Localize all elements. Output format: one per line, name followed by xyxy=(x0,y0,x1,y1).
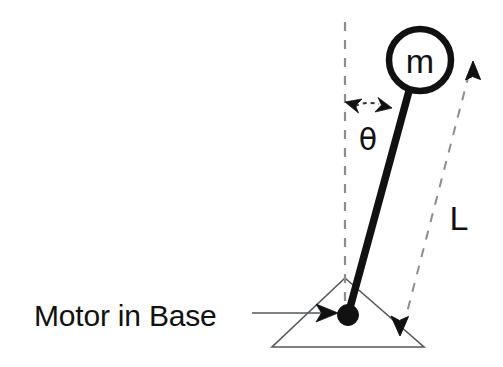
pendulum-schematic-canvas: m θ L Motor in Base xyxy=(0,0,503,367)
arrow-down-icon xyxy=(391,316,409,336)
caption-label: Motor in Base xyxy=(34,299,216,332)
pendulum-rod xyxy=(348,91,409,315)
pivot-dot xyxy=(338,305,359,326)
angle-label: θ xyxy=(359,122,377,157)
mass-label: m xyxy=(406,42,434,80)
angle-double-arrow-icon xyxy=(345,98,392,114)
length-label: L xyxy=(450,199,469,237)
pendulum-diagram: m θ L Motor in Base xyxy=(0,0,503,367)
arrow-up-icon xyxy=(466,61,481,80)
